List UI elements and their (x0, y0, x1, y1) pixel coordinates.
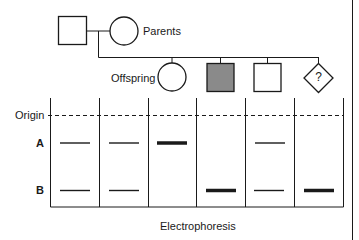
band-label-B: B (36, 184, 44, 196)
father-square-icon (59, 17, 87, 45)
origin-label: Origin (15, 109, 44, 121)
mother-circle-icon (110, 17, 138, 45)
parents-label: Parents (143, 25, 181, 37)
offspring-affected-male-square-icon (207, 64, 234, 92)
band-label-A: A (36, 137, 44, 149)
gel-lanes (51, 98, 344, 207)
unknown-question-icon: ? (307, 71, 330, 83)
electrophoresis-caption: Electrophoresis (160, 220, 236, 232)
offspring-label: Offspring (111, 72, 155, 84)
offspring-male-square-icon (254, 64, 281, 92)
offspring-female-circle-icon (158, 63, 186, 91)
